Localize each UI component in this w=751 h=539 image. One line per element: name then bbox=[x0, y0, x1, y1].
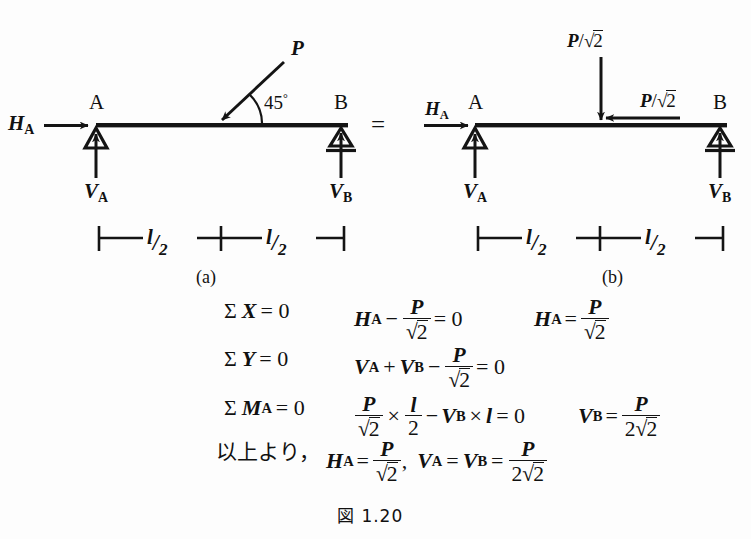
dimension-label-a-left: l/2 bbox=[147, 227, 168, 258]
dimension-label-a-right: l/2 bbox=[266, 227, 287, 258]
equation-row-3-condition: ΣMA= 0 bbox=[224, 397, 354, 419]
beam-a bbox=[96, 123, 348, 127]
equation-row-1: ΣX= 0 bbox=[224, 300, 354, 322]
beam-b bbox=[475, 123, 727, 127]
equation-row-1-condition: ΣX= 0 bbox=[224, 300, 354, 322]
angle-label-45: 45° bbox=[264, 92, 288, 112]
equation-row-3-result: VB = P 2√2 bbox=[578, 393, 661, 440]
equation-row-2: ΣY= 0 bbox=[224, 348, 354, 370]
figure-caption: 図 1.20 bbox=[337, 508, 403, 525]
angle-arc-45 bbox=[250, 95, 262, 123]
dimension-label-b-left: l/2 bbox=[526, 227, 547, 258]
support-b-roller bbox=[330, 128, 352, 146]
equation-row-1-expression: HA − P √2 = 0 bbox=[354, 296, 463, 343]
dimension-label-b-right: l/2 bbox=[645, 227, 666, 258]
load-vertical-label-b: P/√2 bbox=[567, 30, 603, 50]
support-b-roller-b bbox=[709, 128, 731, 146]
reaction-va-label-b: VA bbox=[463, 181, 487, 205]
node-label-a-right: B bbox=[334, 92, 348, 113]
equation-row-4: 以上より， bbox=[216, 442, 320, 463]
reaction-ha-label-b: HA bbox=[425, 99, 449, 121]
reaction-ha-label-a: HA bbox=[8, 113, 34, 137]
equation-row-2-expression: VA + VB − P √2 = 0 bbox=[354, 344, 505, 391]
figure-page: A B HA VA VB P 45° l/2 l/2 (a) = A B HA … bbox=[0, 0, 751, 539]
equation-row-2-condition: ΣY= 0 bbox=[224, 348, 354, 370]
node-label-b-right: B bbox=[713, 92, 727, 113]
conclusion-intro-text: 以上より， bbox=[216, 442, 320, 463]
panel-label-a: (a) bbox=[196, 268, 216, 286]
node-label-a-left: A bbox=[89, 92, 104, 113]
equation-row-4-results: HA = P √2 , VA = VB = P 2√2 bbox=[326, 438, 548, 485]
load-horizontal-label-b: P/√2 bbox=[640, 90, 676, 110]
reaction-vb-label-b: VB bbox=[708, 181, 731, 205]
reaction-vb-label-a: VB bbox=[329, 181, 352, 205]
load-p-label: P bbox=[291, 38, 304, 59]
equation-row-3: ΣMA= 0 bbox=[224, 397, 354, 419]
panel-label-b: (b) bbox=[602, 268, 623, 286]
panels-equals-sign: = bbox=[371, 112, 385, 137]
reaction-va-label-a: VA bbox=[84, 181, 108, 205]
support-a-pin-b bbox=[464, 128, 486, 148]
panel-b-graphics bbox=[424, 57, 735, 251]
equation-row-3-expression: P √2 × l 2 − VB × l = 0 bbox=[354, 393, 525, 440]
support-a-pin bbox=[85, 128, 107, 148]
equation-row-1-result: HA = P √2 bbox=[534, 296, 610, 343]
node-label-b-left: A bbox=[468, 92, 483, 113]
